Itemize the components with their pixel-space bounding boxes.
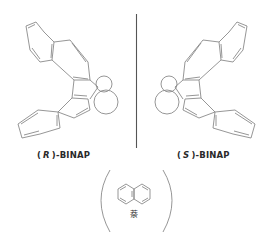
r-phosphine-lower-circle bbox=[94, 90, 118, 114]
r-upper-ring-a bbox=[26, 22, 54, 62]
r-lower-ring-a bbox=[18, 110, 60, 138]
s-binap-structure bbox=[155, 22, 255, 138]
r-phosphine-upper-circle bbox=[96, 76, 112, 92]
naphthalene-structure bbox=[118, 184, 150, 204]
r-binap-label: (R)-BINAP bbox=[37, 150, 90, 160]
left-parenthesis bbox=[101, 170, 110, 232]
s-binap-label: (S)-BINAP bbox=[177, 150, 230, 160]
s-config-letter: S bbox=[183, 150, 189, 160]
r-lower-ring-b bbox=[58, 80, 90, 118]
r-binap-structure bbox=[18, 22, 118, 138]
naphthalene-caption: 萘 bbox=[130, 208, 138, 219]
binap-enantiomers-diagram bbox=[0, 0, 273, 240]
right-parenthesis bbox=[163, 170, 172, 232]
r-config-letter: R bbox=[43, 150, 50, 160]
